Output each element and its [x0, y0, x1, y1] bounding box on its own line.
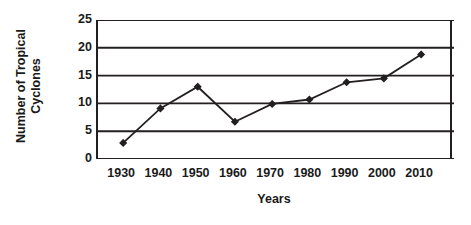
y-axis-tick-label: 5 [62, 124, 92, 137]
gridlines [98, 20, 454, 159]
plot-svg [98, 20, 454, 159]
y-axis-title-line1: Number of Tropical [14, 29, 28, 143]
tropical-cyclones-line-chart: Number of Tropical Cyclones 0510152025 1… [0, 0, 471, 225]
y-axis-tick-label: 10 [62, 96, 92, 109]
data-point-marker [306, 96, 312, 102]
y-axis-tick-label: 20 [62, 41, 92, 54]
data-point-marker [343, 79, 349, 85]
x-axis-title: Years [96, 192, 452, 206]
y-axis-title: Number of Tropical Cyclones [0, 0, 58, 172]
y-axis-tick-label: 0 [62, 152, 92, 165]
x-axis-tick-label: 2010 [395, 166, 443, 180]
y-axis-title-line2: Cyclones [29, 29, 44, 143]
y-axis-tick-labels: 0510152025 [60, 0, 92, 172]
data-point-marker [269, 101, 275, 107]
plot-area [96, 20, 452, 159]
y-axis-tick-label: 25 [62, 13, 92, 26]
x-axis-tick-labels: 193019401950196019701980199020002010 [96, 166, 452, 186]
series-line [123, 54, 421, 142]
y-axis-tick-label: 15 [62, 69, 92, 82]
